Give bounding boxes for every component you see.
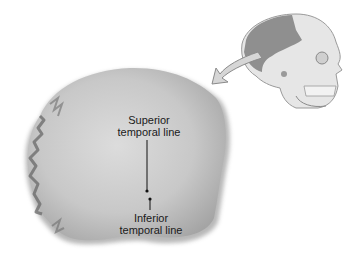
label-line-2: temporal line xyxy=(106,224,196,236)
inferior-temporal-line-label: Inferior temporal line xyxy=(106,212,196,236)
ear-canal xyxy=(281,71,287,77)
superior-temporal-line-label: Superior temporal line xyxy=(104,114,194,138)
skull-inset xyxy=(242,14,342,108)
label-line-1: Superior xyxy=(104,114,194,126)
eye-orbit xyxy=(316,52,328,64)
figure: Superior temporal line Inferior temporal… xyxy=(0,0,346,266)
label-line-2: temporal line xyxy=(104,126,194,138)
teeth xyxy=(304,86,336,96)
superior-point xyxy=(145,189,148,192)
inferior-point xyxy=(148,197,151,200)
label-line-1: Inferior xyxy=(106,212,196,224)
